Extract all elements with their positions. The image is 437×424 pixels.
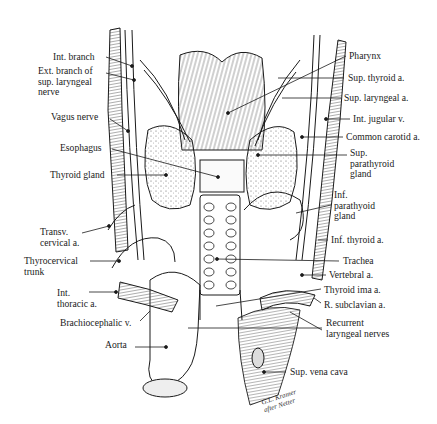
label-sup-vena-cava: Sup. vena cava: [290, 367, 348, 378]
label-recurrent-laryngeal-nerves: Recurrent laryngeal nerves: [326, 318, 389, 339]
label-thyroid-ima-a: Thyroid ima a.: [324, 285, 381, 296]
label-brachiocephalic-v: Brachiocephalic v.: [60, 318, 131, 329]
left-jugular-vein: [108, 28, 128, 252]
label-sup-parathyroid-gland: Sup. parathyroid gland: [350, 148, 394, 180]
label-aorta: Aorta: [105, 340, 127, 351]
aorta: [149, 272, 200, 388]
right-thyroid-lobe: [246, 127, 297, 210]
label-trachea: Trachea: [343, 256, 374, 267]
label-thyrocervical-trunk: Thyrocervical trunk: [24, 256, 78, 277]
label-inf-thyroid-a: Inf. thyroid a.: [331, 235, 384, 246]
label-vertebral-a: Vertebral a.: [329, 270, 373, 281]
brachiocephalic-vein: [118, 282, 178, 312]
label-inf-parathyroid-gland: Inf. parathyoid gland: [334, 190, 375, 222]
esophagus: [200, 160, 244, 192]
aorta-cut: [143, 379, 187, 397]
pharynx: [178, 51, 265, 150]
label-thyroid-gland: Thyroid gland: [50, 170, 105, 181]
label-common-carotid-a: Common carotid a.: [346, 132, 420, 143]
label-int-jugular-v: Int. jugular v.: [353, 114, 405, 125]
label-sup-thyroid-a: Sup. thyroid a.: [348, 73, 405, 84]
label-transv-cervical-a: Transv. cervical a.: [40, 227, 79, 248]
label-esophagus: Esophagus: [60, 143, 102, 154]
label-int-thoracic-a: Int. thoracic a.: [57, 288, 97, 309]
label-pharynx: Pharynx: [349, 51, 381, 62]
label-vagus-nerve: Vagus nerve: [51, 112, 98, 123]
label-int-branch: Int. branch: [53, 52, 95, 63]
label-sup-laryngeal-a: Sup. laryngeal a.: [344, 93, 408, 104]
label-r-subclavian-a: R. subclavian a.: [324, 300, 385, 311]
label-ext-branch-sup-laryngeal-nerve: Ext. branch of sup. laryngeal nerve: [38, 66, 93, 98]
